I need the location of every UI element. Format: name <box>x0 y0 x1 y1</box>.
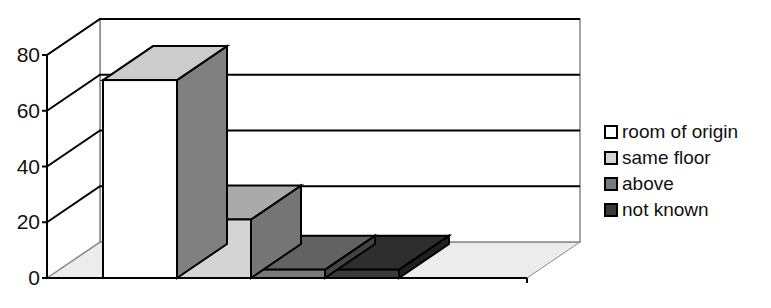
legend-label: room of origin <box>622 121 738 142</box>
y-tick-label: 0 <box>28 266 40 289</box>
legend-label: above <box>622 173 674 194</box>
legend-label: not known <box>622 199 709 220</box>
bar-room-of-origin <box>103 46 227 278</box>
bar-side <box>177 46 227 278</box>
y-tick-labels: 020406080 <box>17 43 40 289</box>
legend-item: room of origin <box>605 121 738 142</box>
y-tick-label: 20 <box>17 210 40 233</box>
y-tick-label: 40 <box>17 155 40 178</box>
legend-swatch <box>605 204 617 216</box>
bar-chart-3d: 020406080 room of originsame flooraboven… <box>0 0 771 308</box>
legend-item: above <box>605 173 674 194</box>
y-tick-label: 80 <box>17 43 40 66</box>
legend-swatch <box>605 126 617 138</box>
legend: room of originsame floorabovenot known <box>605 121 738 220</box>
bar-front <box>103 80 177 278</box>
legend-swatch <box>605 152 617 164</box>
legend-swatch <box>605 178 617 190</box>
legend-item: not known <box>605 199 709 220</box>
legend-label: same floor <box>622 147 711 168</box>
y-tick-label: 60 <box>17 99 40 122</box>
legend-item: same floor <box>605 147 711 168</box>
